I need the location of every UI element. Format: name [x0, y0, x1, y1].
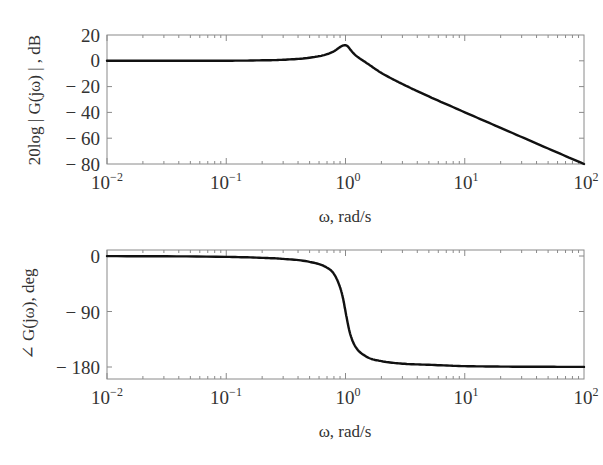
mag-yaxis-label: 20log | G(jω) | , dB [25, 35, 44, 165]
phase-ytick-0: 0 [91, 246, 101, 267]
magnitude-plot: 20 0 − 20 − 40 − 60 − 80 10−2 10−1 100 1… [25, 25, 599, 226]
phase-ytick-neg90: − 90 [66, 302, 100, 323]
phase-xtick-1e0: 100 [336, 385, 361, 408]
phase-xaxis-label: ω, rad/s [319, 422, 372, 441]
phase-yaxis-label: ∠ G(jω), deg [19, 268, 38, 360]
magnitude-axis-ticks [107, 35, 584, 164]
magnitude-axes-frame [107, 35, 584, 164]
phase-curve [107, 256, 584, 367]
phase-xtick-1e2: 102 [574, 385, 599, 408]
mag-ytick-20: 20 [81, 25, 100, 46]
bode-plot-figure: 20 0 − 20 − 40 − 60 − 80 10−2 10−1 100 1… [0, 0, 603, 465]
mag-ytick-neg20: − 20 [66, 76, 100, 97]
phase-xtick-1e1: 101 [454, 385, 479, 408]
mag-xtick-1e-1: 10−1 [210, 170, 242, 193]
mag-xaxis-label: ω, rad/s [319, 207, 372, 226]
mag-ytick-0: 0 [91, 50, 101, 71]
mag-xtick-1e2: 102 [574, 170, 599, 193]
phase-xtick-1e-2: 10−2 [91, 385, 123, 408]
mag-ytick-neg60: − 60 [66, 128, 100, 149]
mag-xtick-1e0: 100 [336, 170, 361, 193]
phase-ytick-neg180: − 180 [56, 357, 100, 378]
mag-xtick-1e-2: 10−2 [91, 170, 123, 193]
mag-xtick-1e1: 101 [454, 170, 479, 193]
phase-plot: 0 − 90 − 180 10−2 10−1 100 101 102 ω, ra… [19, 246, 599, 441]
magnitude-curve [107, 45, 584, 164]
phase-xtick-1e-1: 10−1 [210, 385, 242, 408]
mag-ytick-neg40: − 40 [66, 102, 100, 123]
